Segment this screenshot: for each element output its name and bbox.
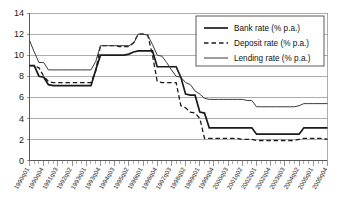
- x-axis-ticks: [30, 161, 328, 166]
- chart-canvas: 02468101214 1990q011990q041991q031992q02…: [0, 0, 342, 208]
- y-tick-label: 10: [14, 50, 24, 60]
- legend-label-0: Bank rate (% p.a.): [234, 24, 300, 33]
- chart-legend: Bank rate (% p.a.)Deposit rate (% p.a.)L…: [196, 16, 324, 66]
- y-axis-tick-labels: 02468101214: [14, 8, 24, 166]
- y-tick-label: 0: [19, 156, 24, 166]
- y-tick-label: 8: [19, 71, 24, 81]
- legend-label-2: Lending rate (% p.a.): [234, 54, 311, 63]
- y-tick-label: 2: [19, 135, 24, 145]
- y-tick-label: 4: [19, 114, 24, 124]
- y-tick-label: 6: [19, 92, 24, 102]
- y-tick-label: 12: [14, 29, 24, 39]
- interest-rates-line-chart: 02468101214 1990q011990q041991q031992q02…: [0, 0, 342, 208]
- y-tick-label: 14: [14, 8, 24, 18]
- legend-label-1: Deposit rate (% p.a.): [234, 39, 309, 48]
- x-axis-tick-labels: 1990q011990q041991q031992q021993q011993q…: [12, 166, 328, 191]
